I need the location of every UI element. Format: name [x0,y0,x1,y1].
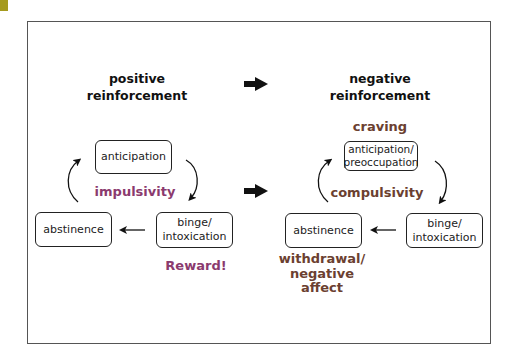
arrows-layer [0,0,508,356]
neg-abstinence-to-anticipation-arrow-icon [318,161,329,202]
neg-anticipation-to-binge-arrow-icon [435,161,446,201]
transition-arrow-top-icon [244,77,268,91]
abstinence-to-anticipation-arrow-icon [68,161,78,202]
anticipation-to-binge-arrow-icon [186,160,197,198]
transition-arrow-middle-icon [244,184,268,198]
